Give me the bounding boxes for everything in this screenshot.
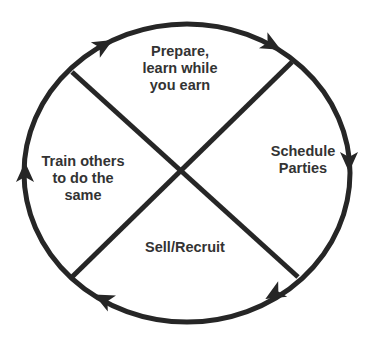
arrow-top-left-icon [91, 32, 117, 58]
section-label-train-others: Train others to do the same [28, 153, 138, 204]
section-label-schedule-parties: Schedule Parties [253, 143, 353, 177]
section-label-prepare: Prepare, learn while you earn [115, 43, 245, 94]
section-label-sell-recruit: Sell/Recruit [120, 239, 250, 256]
